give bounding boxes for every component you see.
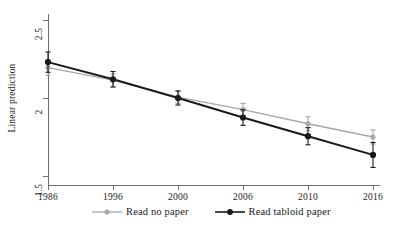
chart-legend: Read no paper Read tabloid paper: [92, 206, 331, 217]
y-axis-title: Linear prediction: [7, 12, 17, 184]
x-tick-label: 2000: [148, 192, 208, 202]
x-tick-mark: [178, 185, 179, 190]
x-tick-mark: [243, 185, 244, 190]
x-tick-label: 1996: [83, 192, 143, 202]
legend-key-gray-line-marker: [92, 207, 122, 217]
y-tick-label: 2.5: [34, 19, 44, 49]
series-read-tabloid-paper: [45, 52, 376, 167]
x-tick-mark: [48, 185, 49, 190]
x-tick-mark: [308, 185, 309, 190]
x-tick-label: 1986: [18, 192, 78, 202]
y-tick-mark: [43, 20, 48, 21]
plot-area: [48, 14, 380, 186]
x-tick-mark: [373, 185, 374, 190]
y-tick-mark: [43, 176, 48, 177]
x-tick-label: 2016: [343, 192, 399, 202]
y-tick-label: 2: [34, 97, 44, 127]
legend-label-read-no-paper: Read no paper: [126, 206, 189, 217]
linear-prediction-chart: Linear prediction 1.522.5 19861996200020…: [0, 0, 399, 239]
legend-key-black-line-marker: [215, 207, 245, 217]
y-tick-mark: [43, 98, 48, 99]
legend-item-read-tabloid-paper[interactable]: Read tabloid paper: [215, 206, 331, 217]
legend-item-read-no-paper[interactable]: Read no paper: [92, 206, 189, 217]
x-tick-label: 2006: [213, 192, 273, 202]
x-tick-mark: [113, 185, 114, 190]
x-tick-label: 2010: [278, 192, 338, 202]
legend-label-read-tabloid-paper: Read tabloid paper: [249, 206, 331, 217]
series-read-no-paper: [45, 60, 375, 144]
